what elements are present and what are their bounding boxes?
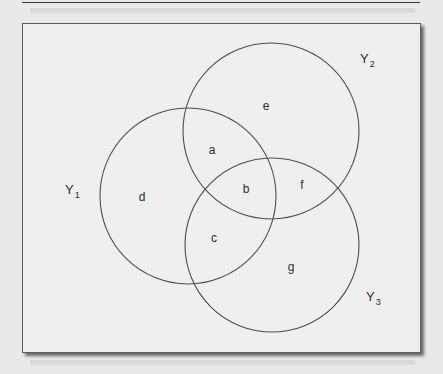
- region-label-e: e: [263, 99, 270, 113]
- circle-y1: [100, 108, 276, 284]
- circle-y2: [183, 43, 359, 219]
- venn-circles: [100, 43, 359, 332]
- circle-y3: [185, 158, 359, 332]
- set-label-y3: Y3: [366, 289, 381, 307]
- set-label-y2: Y2: [360, 51, 375, 69]
- region-label-d: d: [139, 190, 146, 204]
- region-label-a: a: [209, 143, 216, 157]
- set-labels: Y1Y2Y3: [65, 51, 381, 307]
- region-label-f: f: [300, 178, 304, 192]
- region-label-g: g: [288, 260, 295, 274]
- region-label-b: b: [243, 182, 250, 196]
- region-label-c: c: [211, 231, 217, 245]
- region-labels: abcdefg: [139, 99, 305, 274]
- set-label-y1: Y1: [65, 182, 80, 200]
- venn-diagram: Y1Y2Y3 abcdefg: [0, 0, 443, 374]
